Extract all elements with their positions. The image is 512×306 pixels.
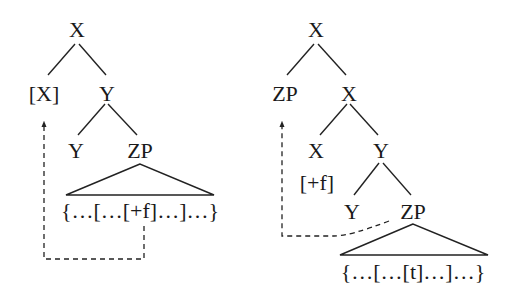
left-zp-node: ZP — [127, 138, 153, 163]
right-edge — [350, 104, 378, 135]
left-terminal-string: {…[…[+f]…]…} — [61, 198, 219, 223]
right-terminal-string: {…[…[t]…]…} — [341, 259, 486, 284]
right-y-node: Y — [373, 138, 389, 163]
left-moved-head-node: [X] — [29, 81, 60, 106]
left-root-node: X — [69, 17, 85, 42]
right-edge — [287, 44, 314, 75]
left-edge — [48, 44, 75, 75]
left-edge — [78, 104, 105, 135]
left-y-node: Y — [99, 81, 115, 106]
right-x-head-node: X — [308, 138, 324, 163]
right-edge — [320, 104, 347, 135]
right-x-bar-node: X — [341, 81, 357, 106]
left-triangle — [66, 164, 214, 195]
right-zp-node: ZP — [400, 199, 426, 224]
left-edge — [79, 44, 106, 75]
right-edge — [383, 163, 411, 195]
right-triangle — [340, 224, 488, 255]
left-y-head-node: Y — [68, 138, 84, 163]
right-tree: X ZP X X Y [+f] Y ZP {…[…[t]…]…} — [272, 17, 488, 284]
left-edge — [108, 104, 137, 135]
right-edge — [354, 163, 379, 195]
right-root-node: X — [308, 17, 324, 42]
right-feature-label: [+f] — [300, 170, 334, 195]
right-zp-spec-node: ZP — [272, 81, 298, 106]
right-y-head-node: Y — [344, 199, 360, 224]
syntax-tree-diagram: X [X] Y Y ZP {…[…[+f]…]…} X ZP X X Y [+f… — [0, 0, 512, 306]
right-edge — [318, 44, 346, 75]
left-tree: X [X] Y Y ZP {…[…[+f]…]…} — [29, 17, 219, 259]
